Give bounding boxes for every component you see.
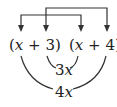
arrowhead-icon [104,25,110,32]
outer-product-label: 4x [55,83,74,101]
outer-terms-arc [73,56,106,89]
inner-product-label: 3x [55,61,74,79]
arrowhead-icon [78,25,84,32]
left-factor: (x + 3) [9,36,61,54]
right-factor: (x + 4) [69,36,117,54]
arrowhead-icon [43,25,49,32]
outer-terms-arc [21,56,53,89]
first-terms-bracket [18,15,84,32]
last-terms-bracket [43,8,110,32]
arrowhead-icon [18,25,24,32]
foil-diagram: (x + 3) (x + 4) 3x 4x [0,0,117,107]
